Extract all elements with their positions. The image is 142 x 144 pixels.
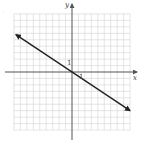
corner-mark: · — [2, 9, 4, 15]
x-axis-label: x — [133, 75, 137, 82]
x-tick-label: 1 — [79, 74, 83, 81]
coordinate-plane — [0, 0, 142, 144]
y-tick-label: 1 — [67, 60, 71, 67]
y-axis-label: y — [65, 2, 69, 9]
